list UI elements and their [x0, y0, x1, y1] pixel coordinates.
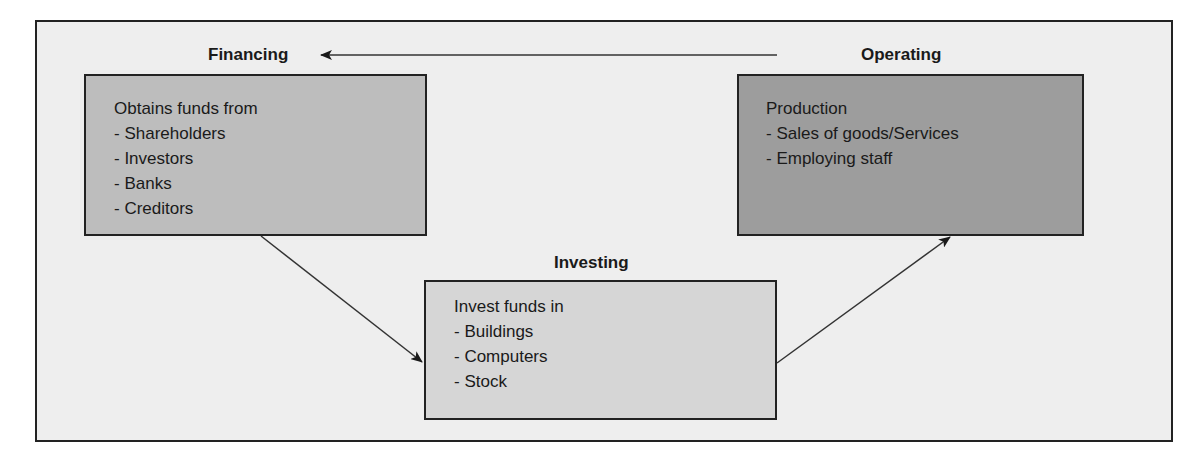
operating-line: Production [766, 96, 1082, 121]
investing-line: - Stock [454, 369, 775, 394]
investing-line: Invest funds in [454, 294, 775, 319]
operating-line: - Employing staff [766, 146, 1082, 171]
financing-box: Obtains funds from - Shareholders - Inve… [84, 74, 427, 236]
operating-heading: Operating [861, 45, 941, 65]
investing-box: Invest funds in - Buildings - Computers … [424, 280, 777, 420]
financing-line: - Investors [114, 146, 425, 171]
operating-line: - Sales of goods/Services [766, 121, 1082, 146]
investing-line: - Buildings [454, 319, 775, 344]
financing-line: - Shareholders [114, 121, 425, 146]
operating-box: Production - Sales of goods/Services - E… [737, 74, 1084, 236]
investing-line: - Computers [454, 344, 775, 369]
financing-line: - Banks [114, 171, 425, 196]
financing-heading: Financing [208, 45, 288, 65]
investing-heading: Investing [554, 253, 629, 273]
financing-line: Obtains funds from [114, 96, 425, 121]
financing-line: - Creditors [114, 196, 425, 221]
